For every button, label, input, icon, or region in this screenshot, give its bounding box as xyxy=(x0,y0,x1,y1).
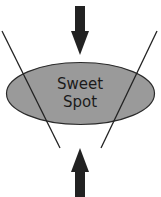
up-arrow-icon xyxy=(71,148,89,197)
down-arrow-icon xyxy=(71,6,89,55)
sweet-spot-label-line1: Sweet xyxy=(40,75,120,93)
sweet-spot-diagram: Sweet Spot xyxy=(0,0,161,197)
sweet-spot-label-line2: Spot xyxy=(40,93,120,111)
